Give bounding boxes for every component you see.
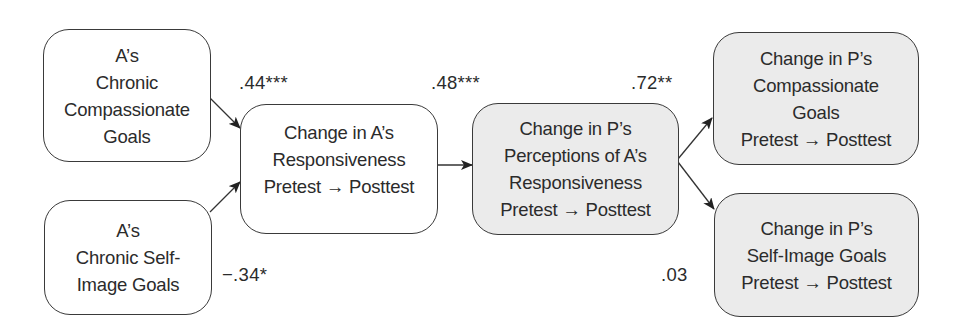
node-line: Change in P’s <box>760 45 872 72</box>
node-line: A’s <box>116 217 139 244</box>
node-change-p-perceptions: Change in P’s Perceptions of A’s Respons… <box>472 103 679 235</box>
node-a-chronic-compassionate-goals: A’s Chronic Compassionate Goals <box>43 29 211 162</box>
coefficient-label: .44*** <box>239 72 288 94</box>
node-change-a-responsiveness: Change in A’s Responsiveness Pretest → P… <box>240 104 438 234</box>
node-line: Pretest → Posttest <box>500 196 651 223</box>
node-change-p-self-image-goals: Change in P’s Self-Image Goals Pretest →… <box>714 193 919 317</box>
arrow-a-self-image-to-a-responsiveness <box>210 182 240 212</box>
node-line: Pretest → Posttest <box>741 126 892 153</box>
node-line: Chronic Self- <box>76 244 180 271</box>
coefficient-label: .03 <box>661 264 688 286</box>
node-line: Change in A’s <box>284 119 394 146</box>
node-line: Self-Image Goals <box>747 242 887 269</box>
node-line: Responsiveness <box>509 169 642 196</box>
node-line: A’s <box>115 42 138 69</box>
coefficient-label: −.34* <box>222 264 267 286</box>
node-line: Goals <box>792 99 839 126</box>
node-line: Goals <box>103 123 150 150</box>
node-a-chronic-self-image-goals: A’s Chronic Self- Image Goals <box>44 200 212 315</box>
node-line: Pretest → Posttest <box>741 269 892 296</box>
node-line: Perceptions of A’s <box>504 142 647 169</box>
node-line: Image Goals <box>77 271 180 298</box>
arrow-p-perceptions-to-p-compassionate <box>678 118 712 159</box>
arrow-a-compassionate-to-a-responsiveness <box>210 98 240 128</box>
coefficient-label: .72** <box>631 72 673 94</box>
node-line: Pretest → Posttest <box>264 173 415 200</box>
node-line: Responsiveness <box>273 146 406 173</box>
node-line: Change in P’s <box>519 115 631 142</box>
node-line: Change in P’s <box>760 215 872 242</box>
arrow-p-perceptions-to-p-self-image <box>678 162 714 209</box>
node-line: Compassionate <box>753 72 879 99</box>
node-change-p-compassionate-goals: Change in P’s Compassionate Goals Pretes… <box>713 32 919 165</box>
node-line: Chronic <box>96 69 158 96</box>
coefficient-label: .48*** <box>431 72 480 94</box>
node-line: Compassionate <box>64 96 190 123</box>
